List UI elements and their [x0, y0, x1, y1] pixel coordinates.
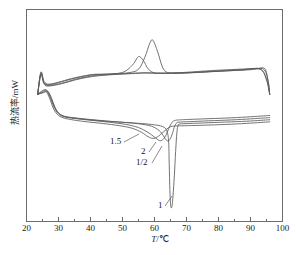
leader-line-1over2	[152, 146, 162, 163]
x-tick-label: 90	[238, 223, 264, 233]
curve-1over2-lower-cooling	[38, 90, 270, 141]
x-axis-title-unit: /℃	[156, 234, 169, 244]
plot-border	[27, 10, 283, 222]
x-tick-label: 20	[14, 223, 40, 233]
curve-2-upper-heating	[38, 40, 270, 95]
curve-label-1over2: 1/2	[136, 157, 148, 167]
curve-label-2: 2	[141, 146, 146, 156]
dsc-chart-figure: 热流率/mW T/℃ 2030405060708090100 1.5 2 1/2…	[0, 0, 295, 255]
leader-line-1p5	[124, 134, 139, 142]
x-tick-label: 30	[46, 223, 72, 233]
x-axis-ticks	[27, 217, 283, 222]
curve-label-1p5: 1.5	[110, 136, 121, 146]
x-tick-label: 70	[174, 223, 200, 233]
curve-label-1: 1	[158, 200, 163, 210]
y-axis-title: 热流率/mW	[8, 63, 21, 143]
curve-2-lower-cooling	[38, 90, 270, 141]
x-tick-label: 50	[110, 223, 136, 233]
plot-frame	[27, 10, 283, 222]
leader-line-2	[149, 142, 156, 152]
x-tick-label: 40	[78, 223, 104, 233]
x-tick-label: 60	[142, 223, 168, 233]
annotation-leader-lines	[124, 134, 172, 206]
data-curves	[38, 40, 270, 208]
curve-1-lower-cooling	[38, 91, 270, 207]
x-tick-label: 80	[206, 223, 232, 233]
curve-1p5-upper-heating	[38, 56, 270, 94]
x-tick-label: 100	[270, 223, 296, 233]
curve-1-upper-heating	[38, 68, 270, 94]
x-axis-title: T/℃	[120, 234, 200, 244]
chart-canvas	[0, 0, 295, 255]
curve-1p5-lower-cooling	[38, 90, 270, 138]
